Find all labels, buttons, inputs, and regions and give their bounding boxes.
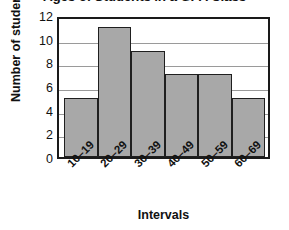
y-tick-label: 4: [46, 105, 53, 119]
bar: [131, 51, 165, 158]
histogram-chart: Ages of Students in a GPA Class Number o…: [0, 0, 289, 230]
y-tick-label: 6: [46, 81, 53, 95]
y-tick-label: 8: [46, 57, 53, 71]
bar: [98, 27, 132, 157]
y-tick-label: 0: [46, 152, 53, 166]
y-axis-title: Number of students: [9, 0, 23, 103]
y-tick-label: 10: [39, 34, 53, 48]
y-tick-label: 2: [46, 128, 53, 142]
x-axis-title: Intervals: [57, 208, 270, 222]
bar-series: [59, 19, 268, 157]
y-axis-tick-labels: 024681012: [27, 17, 53, 159]
chart-title: Ages of Students in a GPA Class: [0, 0, 289, 4]
plot-area: [57, 17, 270, 159]
y-tick-label: 12: [39, 10, 53, 24]
x-axis-tick-labels: 10–1920–2930–3940–4950–5960–69: [57, 161, 270, 207]
